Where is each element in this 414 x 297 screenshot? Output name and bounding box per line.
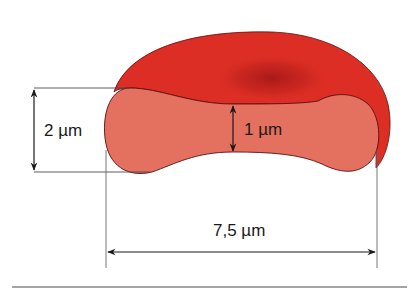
label-7-5um: 7,5 µm (213, 222, 265, 239)
label-2um: 2 µm (44, 122, 82, 139)
rbc-diagram (0, 0, 414, 297)
cell-dimple-shadow (214, 54, 330, 102)
label-1um: 1 µm (244, 121, 282, 138)
